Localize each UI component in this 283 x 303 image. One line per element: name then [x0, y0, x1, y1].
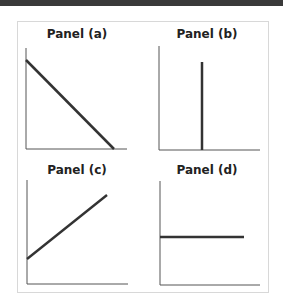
panel-b: [159, 46, 260, 150]
panel-c-line: [27, 195, 107, 259]
panel-a-line: [26, 60, 114, 149]
panel-c: [27, 180, 128, 284]
panel-d: [160, 181, 260, 285]
panels-diagram: [0, 0, 283, 303]
panel-a: [26, 48, 127, 149]
